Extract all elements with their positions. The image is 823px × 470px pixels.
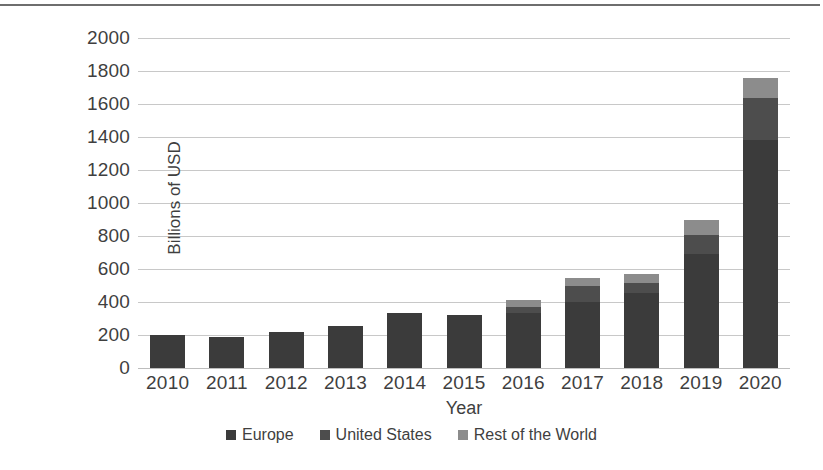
bar-column-2015 [447, 315, 482, 368]
x-tick-label: 2017 [553, 372, 612, 394]
y-tick-label: 1800 [56, 61, 130, 80]
gridline [138, 38, 790, 39]
x-tick-label: 2018 [612, 372, 671, 394]
bar-segment [565, 302, 600, 368]
chart-legend: EuropeUnited StatesRest of the World [0, 426, 823, 444]
x-tick-label: 2011 [197, 372, 256, 394]
x-tick-label: 2019 [671, 372, 730, 394]
gridline [138, 137, 790, 138]
bar-segment [684, 254, 719, 368]
bar-segment [328, 326, 363, 368]
x-tick-label: 2013 [316, 372, 375, 394]
y-tick-label: 600 [56, 259, 130, 278]
y-tick-label: 1000 [56, 193, 130, 212]
legend-label: United States [336, 426, 432, 444]
bar-segment [565, 278, 600, 286]
y-tick-label: 800 [56, 226, 130, 245]
x-tick-label: 2016 [494, 372, 553, 394]
bar-segment [447, 315, 482, 368]
bar-column-2010 [150, 335, 185, 368]
bar-segment [209, 337, 244, 368]
x-tick-label: 2015 [434, 372, 493, 394]
legend-swatch-icon [226, 430, 236, 440]
bar-column-2017 [565, 278, 600, 368]
legend-label: Rest of the World [474, 426, 597, 444]
bar-column-2014 [387, 313, 422, 368]
y-axis-tick-labels: 0200400600800100012001400160018002000 [56, 38, 130, 368]
y-tick-label: 2000 [56, 28, 130, 47]
bar-segment [506, 313, 541, 368]
legend-swatch-icon [458, 430, 468, 440]
plot-area: Billions of USD [138, 38, 790, 368]
gridline [138, 104, 790, 105]
top-divider-rule [0, 4, 820, 6]
bar-segment [565, 286, 600, 302]
bar-segment [150, 335, 185, 368]
gridline [138, 203, 790, 204]
bar-segment [506, 300, 541, 307]
bar-segment [624, 274, 659, 283]
legend-item[interactable]: United States [320, 426, 432, 444]
x-tick-label: 2010 [138, 372, 197, 394]
y-tick-label: 1400 [56, 127, 130, 146]
bar-segment [684, 220, 719, 235]
y-tick-label: 1200 [56, 160, 130, 179]
bar-column-2011 [209, 337, 244, 368]
x-tick-label: 2012 [257, 372, 316, 394]
gridline [138, 368, 790, 369]
y-tick-label: 400 [56, 292, 130, 311]
legend-swatch-icon [320, 430, 330, 440]
legend-item[interactable]: Europe [226, 426, 294, 444]
bar-column-2020 [743, 78, 778, 368]
bar-column-2019 [684, 220, 719, 368]
bar-segment [743, 140, 778, 368]
bar-segment [743, 98, 778, 140]
gridline [138, 71, 790, 72]
chart-figure: 0200400600800100012001400160018002000 Bi… [0, 0, 823, 470]
y-tick-label: 1600 [56, 94, 130, 113]
bar-segment [684, 235, 719, 254]
bar-segment [624, 293, 659, 368]
bar-segment [387, 313, 422, 368]
legend-label: Europe [242, 426, 294, 444]
x-tick-label: 2014 [375, 372, 434, 394]
bar-segment [624, 283, 659, 293]
y-tick-label: 0 [56, 358, 130, 377]
bar-column-2016 [506, 300, 541, 368]
bar-segment [743, 78, 778, 98]
x-tick-label: 2020 [731, 372, 790, 394]
bar-column-2018 [624, 274, 659, 368]
y-axis-title: Billions of USD [165, 103, 185, 293]
x-axis-tick-labels: 2010201120122013201420152016201720182019… [138, 372, 790, 400]
y-tick-label: 200 [56, 325, 130, 344]
legend-item[interactable]: Rest of the World [458, 426, 597, 444]
bar-segment [269, 332, 304, 368]
bar-column-2012 [269, 332, 304, 368]
x-axis-title: Year [138, 398, 790, 419]
bar-column-2013 [328, 326, 363, 368]
gridline [138, 170, 790, 171]
